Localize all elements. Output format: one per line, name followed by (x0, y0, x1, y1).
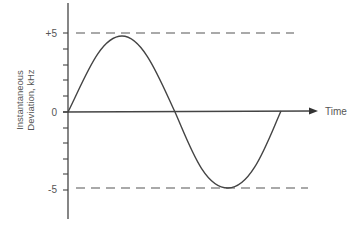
x-axis (63, 111, 312, 112)
y-tick-label-plus5: +5 (46, 28, 58, 39)
chart-canvas: +5 0 -5 Time Instantaneous Deviation, kH… (0, 0, 360, 229)
fm-deviation-diagram: +5 0 -5 Time Instantaneous Deviation, kH… (0, 0, 360, 229)
y-axis-label-line2: Deviation, kHz (25, 69, 36, 130)
arrow-right-icon (309, 108, 318, 115)
x-axis-label: Time (325, 106, 347, 117)
y-tick-label-minus5: -5 (48, 184, 57, 195)
y-axis-label: Instantaneous Deviation, kHz (14, 69, 36, 130)
y-axis-label-line1: Instantaneous (14, 70, 25, 130)
y-tick-label-zero: 0 (51, 107, 57, 118)
